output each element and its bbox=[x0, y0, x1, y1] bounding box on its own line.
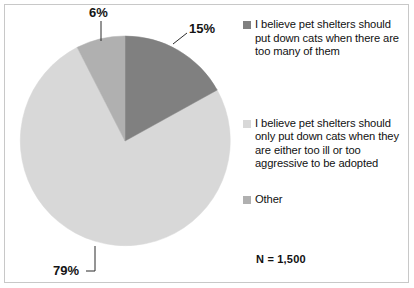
leader-line-only-too-ill bbox=[86, 246, 95, 271]
legend-swatch-icon bbox=[243, 120, 251, 128]
legend-item-label: Other bbox=[255, 193, 282, 207]
pie-chart-figure: 6% 15% 79% I believe pet shelters should… bbox=[0, 0, 414, 288]
legend-item-other[interactable]: Other bbox=[243, 193, 409, 207]
legend-item-label: I believe pet shelters should put down c… bbox=[255, 18, 409, 59]
slice-label-too-many: 15% bbox=[189, 21, 215, 36]
slice-label-only-too-ill: 79% bbox=[53, 263, 79, 278]
legend-swatch-icon bbox=[243, 196, 251, 204]
sample-size-annotation: N = 1,500 bbox=[256, 253, 306, 265]
chart-legend: I believe pet shelters should put down c… bbox=[243, 18, 409, 228]
legend-item-too-many[interactable]: I believe pet shelters should put down c… bbox=[243, 18, 409, 59]
slice-label-other: 6% bbox=[89, 5, 108, 20]
legend-swatch-icon bbox=[243, 21, 251, 29]
legend-item-only-too-ill[interactable]: I believe pet shelters should only put d… bbox=[243, 117, 409, 171]
leader-line-too-many bbox=[173, 33, 187, 44]
legend-item-label: I believe pet shelters should only put d… bbox=[255, 117, 409, 171]
